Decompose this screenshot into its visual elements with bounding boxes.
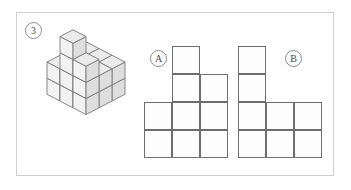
grid-cell xyxy=(238,46,266,74)
option-a-grid[interactable] xyxy=(144,46,236,162)
grid-cell xyxy=(172,74,200,102)
isometric-cube-stack xyxy=(28,14,148,166)
grid-cell xyxy=(200,74,228,102)
grid-cell xyxy=(238,74,266,102)
grid-cell xyxy=(172,102,200,130)
grid-cell xyxy=(200,102,228,130)
grid-cell xyxy=(172,130,200,158)
grid-cell xyxy=(172,46,200,74)
grid-cell xyxy=(238,102,266,130)
option-b-grid[interactable] xyxy=(238,46,330,162)
grid-cell xyxy=(294,102,322,130)
grid-cell xyxy=(266,130,294,158)
isometric-cube-svg xyxy=(28,14,148,166)
grid-cell xyxy=(200,130,228,158)
grid-cell xyxy=(144,130,172,158)
grid-cell xyxy=(144,102,172,130)
grid-cell xyxy=(266,102,294,130)
page-canvas: 3 A B xyxy=(0,0,351,190)
grid-cell xyxy=(238,130,266,158)
grid-cell xyxy=(294,130,322,158)
